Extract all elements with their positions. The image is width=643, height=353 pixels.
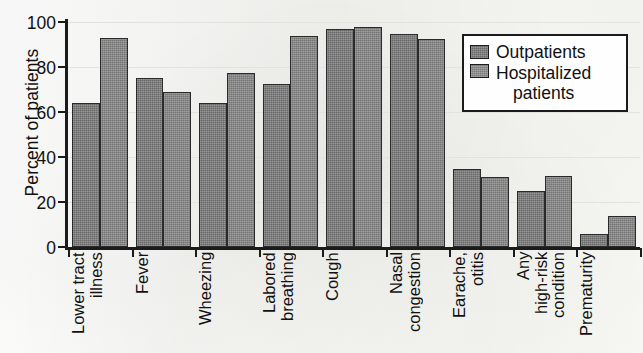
legend-item-outpatients: Outpatients bbox=[470, 40, 620, 64]
legend-label-hospitalized-block: Hospitalized patients bbox=[496, 64, 591, 104]
x-axis-label: Cough bbox=[324, 252, 384, 352]
legend-label-hospitalized-line2: patients bbox=[496, 83, 591, 104]
bar bbox=[453, 169, 481, 247]
bar bbox=[517, 191, 545, 247]
legend-swatch-hospitalized bbox=[470, 64, 489, 78]
x-axis-label: Any high-risk condition bbox=[515, 252, 575, 352]
y-tick-label-20: 20 bbox=[10, 193, 56, 214]
x-axis-line bbox=[65, 247, 640, 250]
bar bbox=[100, 38, 128, 247]
x-axis-label: Nasal congestion bbox=[388, 252, 448, 352]
bar bbox=[580, 234, 608, 248]
y-tick-label-100: 100 bbox=[10, 13, 56, 34]
bar bbox=[354, 27, 382, 248]
y-tick-mark-80 bbox=[58, 66, 66, 68]
bar-group bbox=[136, 22, 192, 247]
bar-group bbox=[263, 22, 319, 247]
chart-legend: Outpatients Hospitalized patients bbox=[462, 34, 628, 112]
legend-label-hospitalized: Hospitalized bbox=[496, 64, 591, 83]
x-axis-label: Fever bbox=[134, 252, 194, 352]
bar-chart: Percent of patients 020406080100 Lower t… bbox=[0, 0, 643, 353]
bar bbox=[72, 103, 100, 247]
y-tick-label-60: 60 bbox=[10, 103, 56, 124]
bar bbox=[290, 36, 318, 248]
y-tick-mark-60 bbox=[58, 111, 66, 113]
x-axis-label: Wheezing bbox=[197, 252, 257, 352]
legend-item-hospitalized: Hospitalized patients bbox=[470, 64, 620, 104]
bar bbox=[390, 34, 418, 247]
x-axis-label: Lower tract illness bbox=[70, 252, 130, 352]
bar bbox=[136, 78, 164, 247]
y-tick-label-0: 0 bbox=[10, 238, 56, 259]
bar bbox=[481, 177, 509, 247]
legend-label-outpatients: Outpatients bbox=[496, 43, 586, 62]
bar bbox=[608, 216, 636, 248]
y-tick-label-80: 80 bbox=[10, 58, 56, 79]
x-axis-label: Prematurity bbox=[578, 252, 638, 352]
y-axis-line bbox=[65, 19, 68, 250]
bar-group bbox=[72, 22, 128, 247]
y-tick-mark-40 bbox=[58, 156, 66, 158]
y-tick-mark-20 bbox=[58, 201, 66, 203]
bar-group bbox=[199, 22, 255, 247]
x-tick bbox=[640, 248, 642, 257]
bar bbox=[163, 92, 191, 247]
legend-swatch-outpatients bbox=[470, 45, 489, 59]
bar bbox=[545, 176, 573, 247]
x-axis-label: Labored breathing bbox=[261, 252, 321, 352]
y-tick-label-40: 40 bbox=[10, 148, 56, 169]
bar bbox=[227, 73, 255, 247]
x-axis-label: Earache, otitis bbox=[451, 252, 511, 352]
bar bbox=[418, 39, 446, 247]
bar-group bbox=[326, 22, 382, 247]
bar bbox=[263, 84, 291, 247]
y-tick-mark-0 bbox=[58, 246, 66, 248]
y-tick-mark-100 bbox=[58, 21, 66, 23]
bar bbox=[326, 29, 354, 247]
bar-group bbox=[390, 22, 446, 247]
bar bbox=[199, 103, 227, 247]
